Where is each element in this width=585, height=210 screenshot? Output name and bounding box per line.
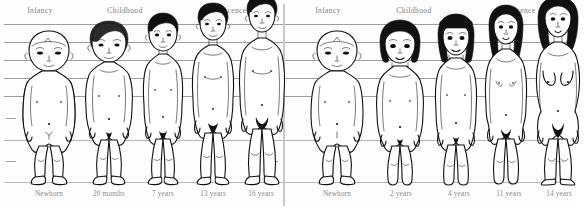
panel-male: Infancy Childhood Pubescence [0, 0, 284, 210]
figure-female-11-years [482, 5, 530, 185]
figure-female-4-years [431, 13, 481, 185]
age-label-female-0: Newborn [302, 190, 372, 198]
figure-male-20-months [82, 20, 136, 185]
age-label-female-4: 14 years [524, 190, 585, 198]
stage-header-infancy-male: Infancy [0, 6, 80, 15]
figure-male-7-years [140, 13, 186, 185]
figure-female-newborn [306, 28, 368, 185]
figure-female-2-years [372, 19, 428, 185]
figure-male-16-years [238, 0, 286, 185]
stage-header-infancy-female: Infancy [288, 6, 368, 15]
figure-female-14-years [532, 0, 584, 185]
figure-male-13-years [190, 3, 236, 185]
panel-female: Infancy Childhood Pubescence [286, 0, 573, 210]
figure-male-newborn [18, 28, 80, 185]
